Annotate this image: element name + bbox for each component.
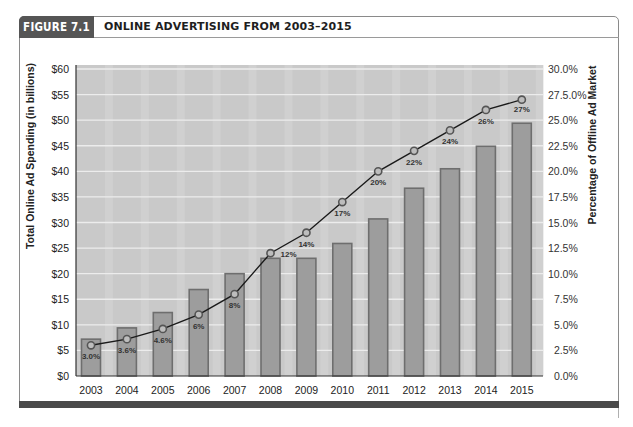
x-tick-label: 2012 <box>402 384 426 396</box>
left-tick-label: $5 <box>57 344 69 356</box>
right-tick-label: 12.5% <box>548 242 578 254</box>
right-tick-label: 22.5% <box>548 140 578 152</box>
right-axis-title: Percentage of Offline Ad Market <box>586 65 598 224</box>
line-marker <box>123 336 130 343</box>
left-tick-label: $25 <box>51 242 69 254</box>
line-marker <box>446 127 453 134</box>
line-marker <box>518 96 525 103</box>
line-marker <box>195 311 202 318</box>
left-axis-ticks: $0$5$10$15$20$25$30$35$40$45$50$55$60 <box>51 63 69 382</box>
right-tick-label: 5.0% <box>554 319 578 331</box>
data-point-label: 17% <box>334 209 350 218</box>
right-axis-ticks: 0.0%2.5%5.0%7.5%10.0%12.5%15.0%17.5%20.0… <box>548 63 587 382</box>
left-tick-label: $35 <box>51 191 69 203</box>
left-tick-label: $55 <box>51 89 69 101</box>
data-point-label: 26% <box>478 117 494 126</box>
left-tick-label: $0 <box>57 370 69 382</box>
right-tick-label: 2.5% <box>554 344 578 356</box>
chart-area: 3.0%3.6%4.6%6%8%12%14%17%20%22%24%26%27%… <box>0 0 633 427</box>
bar-2014 <box>476 146 495 376</box>
bar-2012 <box>405 188 424 376</box>
left-tick-label: $10 <box>51 319 69 331</box>
bar-2007 <box>225 274 244 376</box>
x-tick-label: 2006 <box>187 384 211 396</box>
bar-2009 <box>297 258 316 376</box>
x-tick-label: 2003 <box>79 384 103 396</box>
data-point-label: 14% <box>298 240 314 249</box>
right-tick-label: 30.0% <box>548 63 578 75</box>
plot-strip <box>500 65 508 376</box>
data-point-label: 8% <box>229 301 241 310</box>
line-marker <box>87 342 94 349</box>
bar-2013 <box>441 169 460 376</box>
left-tick-label: $60 <box>51 63 69 75</box>
data-point-label: 12% <box>281 250 297 259</box>
data-point-label: 3.6% <box>118 346 136 355</box>
x-axis-ticks: 2003200420052006200720082009201020112012… <box>79 384 533 396</box>
plot-strip <box>356 65 364 376</box>
data-point-label: 20% <box>370 178 386 187</box>
line-marker <box>339 198 346 205</box>
bar-2015 <box>512 123 531 376</box>
x-tick-label: 2005 <box>151 384 175 396</box>
line-marker <box>267 250 274 257</box>
right-tick-label: 25.0% <box>548 114 578 126</box>
right-tick-label: 0.0% <box>554 370 578 382</box>
x-tick-label: 2015 <box>510 384 534 396</box>
data-point-label: 4.6% <box>154 336 172 345</box>
right-tick-label: 27.5.0% <box>548 89 587 101</box>
left-tick-label: $50 <box>51 114 69 126</box>
left-tick-label: $15 <box>51 293 69 305</box>
data-point-label: 27% <box>514 105 530 114</box>
plot-strip <box>464 65 472 376</box>
figure-bottom-bar <box>19 401 619 408</box>
right-tick-label: 20.0% <box>548 165 578 177</box>
line-marker <box>482 106 489 113</box>
data-point-label: 6% <box>193 322 205 331</box>
right-tick-label: 10.0% <box>548 268 578 280</box>
plot-strip <box>536 65 544 376</box>
line-marker <box>231 291 238 298</box>
right-tick-label: 7.5% <box>554 293 578 305</box>
bar-2006 <box>189 290 208 376</box>
right-tick-label: 15.0% <box>548 217 578 229</box>
x-tick-label: 2011 <box>367 384 390 396</box>
plot-strip <box>177 65 185 376</box>
line-marker <box>303 229 310 236</box>
bar-2010 <box>333 243 352 376</box>
plot-strip <box>249 65 257 376</box>
line-marker <box>159 325 166 332</box>
x-tick-label: 2009 <box>295 384 319 396</box>
x-tick-label: 2013 <box>438 384 462 396</box>
plot-strip <box>105 65 113 376</box>
data-point-label: 3.0% <box>82 352 100 361</box>
plot-strip <box>213 65 221 376</box>
bar-2008 <box>261 258 280 376</box>
line-marker <box>375 168 382 175</box>
line-marker <box>411 147 418 154</box>
plot-strip <box>141 65 149 376</box>
left-tick-label: $20 <box>51 268 69 280</box>
data-point-label: 22% <box>406 158 422 167</box>
plot-strip <box>285 65 293 376</box>
x-tick-label: 2004 <box>115 384 139 396</box>
left-tick-label: $30 <box>51 217 69 229</box>
plot-strip <box>392 65 400 376</box>
x-tick-label: 2010 <box>331 384 355 396</box>
frame-edge <box>618 408 619 418</box>
left-tick-label: $40 <box>51 165 69 177</box>
left-tick-label: $45 <box>51 140 69 152</box>
data-point-label: 24% <box>442 137 458 146</box>
bar-2011 <box>369 219 388 376</box>
x-tick-label: 2014 <box>474 384 498 396</box>
x-tick-label: 2008 <box>259 384 283 396</box>
left-axis-title: Total Online Ad Spending (in billions) <box>24 63 36 249</box>
plot-strip <box>428 65 436 376</box>
x-tick-label: 2007 <box>223 384 247 396</box>
right-tick-label: 17.5% <box>548 191 578 203</box>
